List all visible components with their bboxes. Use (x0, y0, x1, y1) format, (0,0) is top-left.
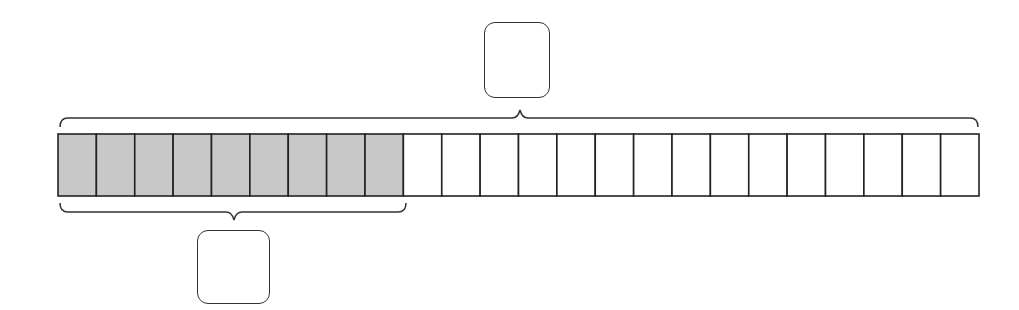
shaded-cell (173, 134, 211, 196)
unshaded-cell (864, 134, 902, 196)
unshaded-cell (672, 134, 710, 196)
shaded-cell (250, 134, 288, 196)
unshaded-cell (519, 134, 557, 196)
shaded-cell (135, 134, 173, 196)
shaded-cell (212, 134, 250, 196)
shaded-cell (365, 134, 403, 196)
bottom-brace (60, 203, 406, 220)
shaded-answer-box[interactable] (197, 230, 270, 304)
unshaded-cell (902, 134, 940, 196)
tape-cells (58, 134, 979, 196)
unshaded-cell (595, 134, 633, 196)
unshaded-cell (787, 134, 825, 196)
total-answer-box[interactable] (484, 22, 550, 98)
unshaded-cell (480, 134, 518, 196)
unshaded-cell (710, 134, 748, 196)
shaded-cell (96, 134, 134, 196)
unshaded-cell (442, 134, 480, 196)
shaded-cell (327, 134, 365, 196)
unshaded-cell (941, 134, 979, 196)
top-brace (60, 110, 978, 127)
unshaded-cell (826, 134, 864, 196)
shaded-cell (58, 134, 96, 196)
unshaded-cell (749, 134, 787, 196)
unshaded-cell (634, 134, 672, 196)
unshaded-cell (557, 134, 595, 196)
shaded-cell (288, 134, 326, 196)
unshaded-cell (403, 134, 441, 196)
